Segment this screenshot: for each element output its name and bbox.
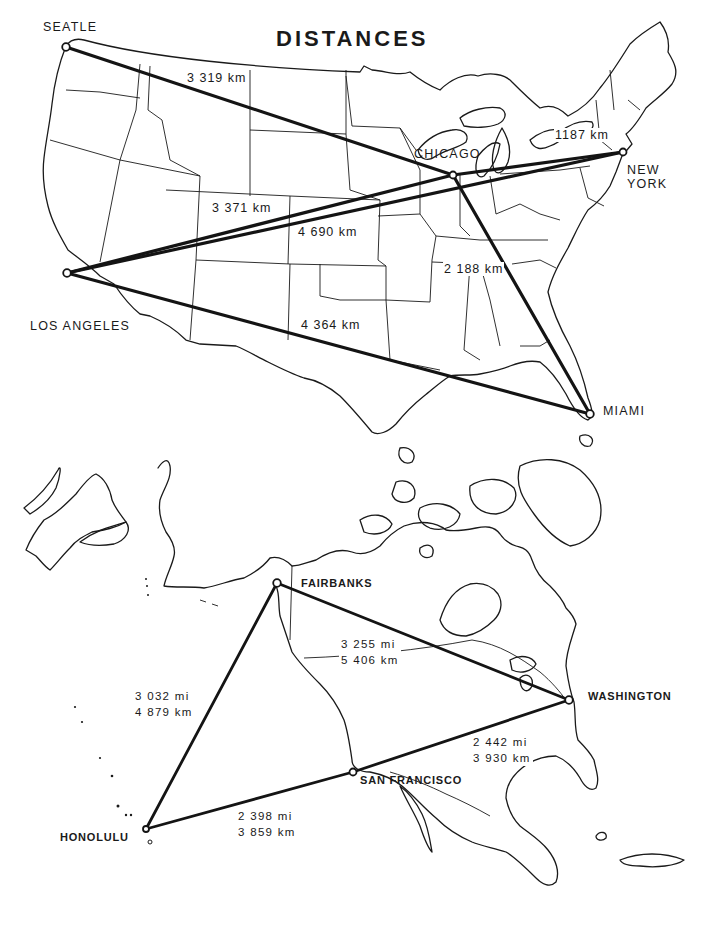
distance-label-fairbanks-washington: 3 255 mi 5 406 km <box>339 636 401 668</box>
city-label-sanfrancisco: SAN FRANCISCO <box>360 774 462 786</box>
city-label-chicago: CHICAGO <box>414 147 481 161</box>
distance-label-seattle-chicago: 3 319 km <box>186 71 247 85</box>
route-chicago-miami <box>453 175 590 414</box>
distance-label-sanfrancisco-washington: 2 442 mi 3 930 km <box>471 734 533 766</box>
distance-km: 3 930 km <box>473 750 531 766</box>
distance-km: 4 879 km <box>135 704 193 720</box>
city-label-newyork-line2: YORK <box>627 177 667 191</box>
distance-label-fairbanks-honolulu: 3 032 mi 4 879 km <box>133 688 195 720</box>
distance-label-chicago-miami: 2 188 km <box>443 262 504 276</box>
route-la-chicago <box>67 175 453 273</box>
distance-km: 3 859 km <box>238 824 296 840</box>
city-label-miami: MIAMI <box>603 404 645 418</box>
distance-miles: 3 032 mi <box>135 688 193 704</box>
distance-miles: 3 255 mi <box>341 636 399 652</box>
city-marker-losangeles <box>63 269 71 277</box>
city-marker-washington <box>565 696 573 704</box>
city-marker-honolulu <box>143 826 149 832</box>
us-outline <box>43 22 676 434</box>
map-canvas <box>0 0 725 936</box>
route-la-newyork <box>67 152 623 273</box>
distance-label-la-chicago: 3 371 km <box>211 201 272 215</box>
city-marker-miami <box>586 410 594 418</box>
distance-miles: 2 442 mi <box>473 734 531 750</box>
city-label-washington: WASHINGTON <box>588 690 672 702</box>
distance-label-chicago-newyork: 1187 km <box>554 128 610 142</box>
city-label-seattle: SEATLE <box>43 20 97 34</box>
route-sanfrancisco-washington <box>353 700 569 772</box>
city-marker-chicago <box>450 172 457 179</box>
city-label-losangeles: LOS ANGELES <box>30 319 130 333</box>
city-marker-newyork <box>620 149 627 156</box>
distance-label-la-miami: 4 364 km <box>300 318 361 332</box>
city-label-honolulu: HONOLULU <box>60 831 129 843</box>
distance-km: 5 406 km <box>341 652 399 668</box>
city-marker-sanfrancisco <box>350 769 357 776</box>
page-title: DISTANCES <box>276 26 429 52</box>
distance-label-honolulu-sanfrancisco: 2 398 mi 3 859 km <box>236 808 298 840</box>
route-fairbanks-washington <box>277 583 569 700</box>
distance-label-la-newyork: 4 690 km <box>297 225 358 239</box>
distance-miles: 2 398 mi <box>238 808 296 824</box>
city-marker-seattle <box>62 43 70 51</box>
route-la-miami <box>67 273 590 414</box>
city-label-fairbanks: FAIRBANKS <box>301 577 372 589</box>
city-label-newyork-line1: NEW <box>627 163 660 177</box>
city-marker-fairbanks <box>273 579 281 587</box>
na-routes <box>143 579 573 832</box>
